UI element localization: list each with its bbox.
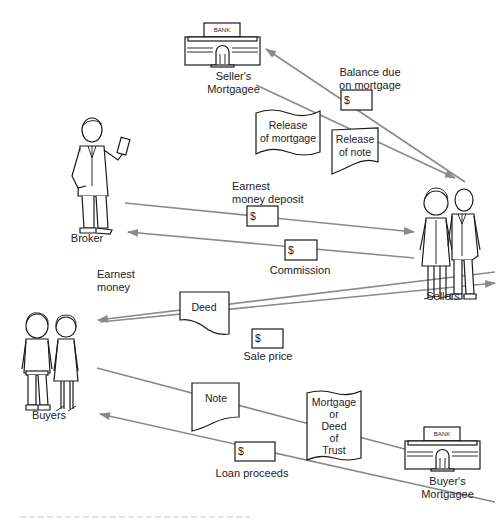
sellers-figure-icon xyxy=(420,188,480,299)
balance-due-dollar-sign: $ xyxy=(344,94,350,106)
broker-label: Broker xyxy=(62,232,112,245)
buyers-mortgagee-label: Buyer's Mortgagee xyxy=(410,475,485,501)
mortgage-doc-line5: Trust xyxy=(322,444,346,456)
sellers-mortgagee-label-line1: Seller's xyxy=(196,70,271,83)
sale-price-money-box: $ xyxy=(252,329,283,348)
buyers-label: Buyers xyxy=(24,409,74,422)
buyers-mortgagee-label-line2: Mortgagee xyxy=(410,488,485,501)
note-label: Note xyxy=(205,392,227,404)
sellers-mortgagee-label: Seller's Mortgagee xyxy=(196,70,271,96)
mortgage-doc-line4: of xyxy=(330,432,339,444)
sellers-mortgagee-bank-sign: BANK xyxy=(214,27,230,33)
earnest-deposit-label-line2: money deposit xyxy=(232,193,304,206)
note-document: Note xyxy=(192,383,239,431)
sale-price-label: Sale price xyxy=(236,350,300,363)
deed-document: Deed xyxy=(180,292,229,334)
loan-proceeds-dollar-sign: $ xyxy=(238,445,244,457)
earnest-money-label-line2: money xyxy=(97,281,135,294)
buyers-mortgagee-label-line1: Buyer's xyxy=(410,475,485,488)
release-of-note-line1: Release xyxy=(336,133,375,145)
earnest-money-label-line1: Earnest xyxy=(97,268,135,281)
earnest-deposit-money-box: $ xyxy=(247,206,278,226)
balance-due-label-line1: Balance due xyxy=(330,66,410,79)
buyers-mortgagee-bank-icon: BANK xyxy=(405,427,480,471)
mortgage-doc-line2: or xyxy=(329,408,339,420)
earnest-deposit-label: Earnest money deposit xyxy=(232,180,304,206)
balance-due-label-line2: on mortgage xyxy=(330,79,410,92)
buyers-figure-icon xyxy=(22,313,78,411)
release-of-note-document: Release of note xyxy=(332,128,378,174)
flow-note-mortgage-line xyxy=(97,368,416,452)
sale-price-dollar-sign: $ xyxy=(255,332,261,344)
commission-dollar-sign: $ xyxy=(288,244,294,256)
earnest-deposit-dollar-sign: $ xyxy=(250,210,256,222)
loan-proceeds-money-box: $ xyxy=(235,442,275,461)
balance-due-money-box: $ xyxy=(341,90,372,110)
balance-due-label: Balance due on mortgage xyxy=(330,66,410,92)
sellers-mortgagee-label-line2: Mortgagee xyxy=(196,83,271,96)
flow-commission-line xyxy=(128,232,414,258)
faint-cutoff-caption-line xyxy=(20,516,250,518)
broker-figure-icon xyxy=(72,118,130,234)
buyers-mortgagee-bank-sign: BANK xyxy=(434,431,450,437)
release-of-note-line2: of note xyxy=(339,146,371,158)
earnest-money-label: Earnest money xyxy=(97,268,135,294)
deed-label: Deed xyxy=(191,301,216,313)
sellers-mortgagee-bank-icon: BANK xyxy=(185,23,260,67)
commission-money-box: $ xyxy=(285,240,317,260)
loan-proceeds-label: Loan proceeds xyxy=(212,467,292,480)
sellers-label: Sellers xyxy=(418,290,468,303)
release-of-mortgage-line1: Release xyxy=(269,119,308,131)
mortgage-or-deed-of-trust-document: Mortgage or Deed of Trust xyxy=(307,391,361,460)
earnest-deposit-label-line1: Earnest xyxy=(232,180,304,193)
mortgage-doc-line1: Mortgage xyxy=(312,396,357,408)
commission-label: Commission xyxy=(268,264,332,277)
mortgage-doc-line3: Deed xyxy=(321,420,346,432)
release-of-mortgage-line2: of mortgage xyxy=(260,132,316,144)
release-of-mortgage-document: Release of mortgage xyxy=(256,110,320,155)
